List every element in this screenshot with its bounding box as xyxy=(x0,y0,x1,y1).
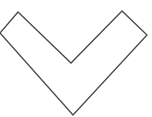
chevron-outline xyxy=(0,11,147,115)
chevron-down-icon xyxy=(0,0,152,117)
